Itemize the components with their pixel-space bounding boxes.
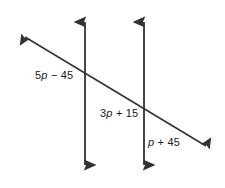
angle-label-right: p + 45 [147,136,181,149]
transversal-line [25,37,206,146]
angle-label-middle: 3p + 15 [99,107,139,120]
angle-label-left-text: 5p − 45 [35,69,73,81]
angle-label-right-text: p + 45 [148,136,180,148]
angle-label-middle-text: 3p + 15 [100,107,138,119]
geometry-figure: 5p − 45 3p + 15 p + 45 [0,0,225,188]
geometry-canvas [0,0,225,188]
angle-label-left: 5p − 45 [34,69,74,82]
